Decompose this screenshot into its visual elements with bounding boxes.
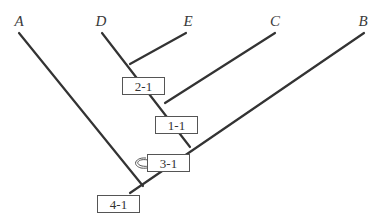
taxon-label-b: B bbox=[358, 14, 367, 29]
taxon-label-c: C bbox=[270, 14, 280, 29]
taxon-label-d: D bbox=[96, 14, 107, 29]
tree-branches bbox=[0, 0, 376, 224]
node-box-3-1: 3-1 bbox=[147, 154, 190, 172]
node-box-2-1: 2-1 bbox=[122, 77, 165, 95]
node-box-1-1: 1-1 bbox=[155, 116, 198, 134]
taxon-label-a: A bbox=[14, 14, 23, 29]
node-box-4-1: 4-1 bbox=[97, 195, 140, 213]
taxon-label-e: E bbox=[183, 14, 192, 29]
